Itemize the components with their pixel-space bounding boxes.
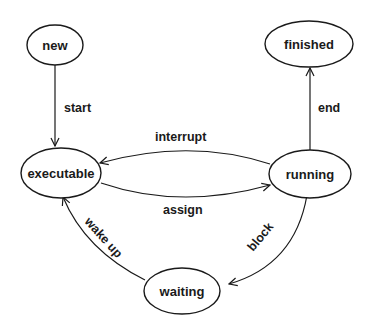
edge-label-interrupt: interrupt [155,130,207,144]
edge-label-end: end [318,101,340,115]
node-running: running [269,150,351,198]
node-waiting: waiting [144,268,220,314]
node-executable: executable [21,148,101,198]
node-label-executable: executable [27,166,94,181]
edge-start: start [55,65,92,146]
edge-label-block: block [245,220,277,254]
state-diagram: start end interrupt assign block wake up… [0,0,366,327]
node-label-finished: finished [284,37,334,52]
node-label-new: new [42,38,68,53]
edge-assign: assign [101,183,270,217]
edge-end: end [310,68,340,152]
node-label-running: running [286,167,334,182]
edge-interrupt: interrupt [100,130,270,164]
edge-wake-up: wake up [63,197,145,280]
edge-label-assign: assign [163,203,203,217]
edge-block: block [229,195,307,284]
node-new: new [27,25,83,65]
node-label-waiting: waiting [159,284,205,299]
edge-label-start: start [64,101,92,115]
node-finished: finished [265,21,353,67]
